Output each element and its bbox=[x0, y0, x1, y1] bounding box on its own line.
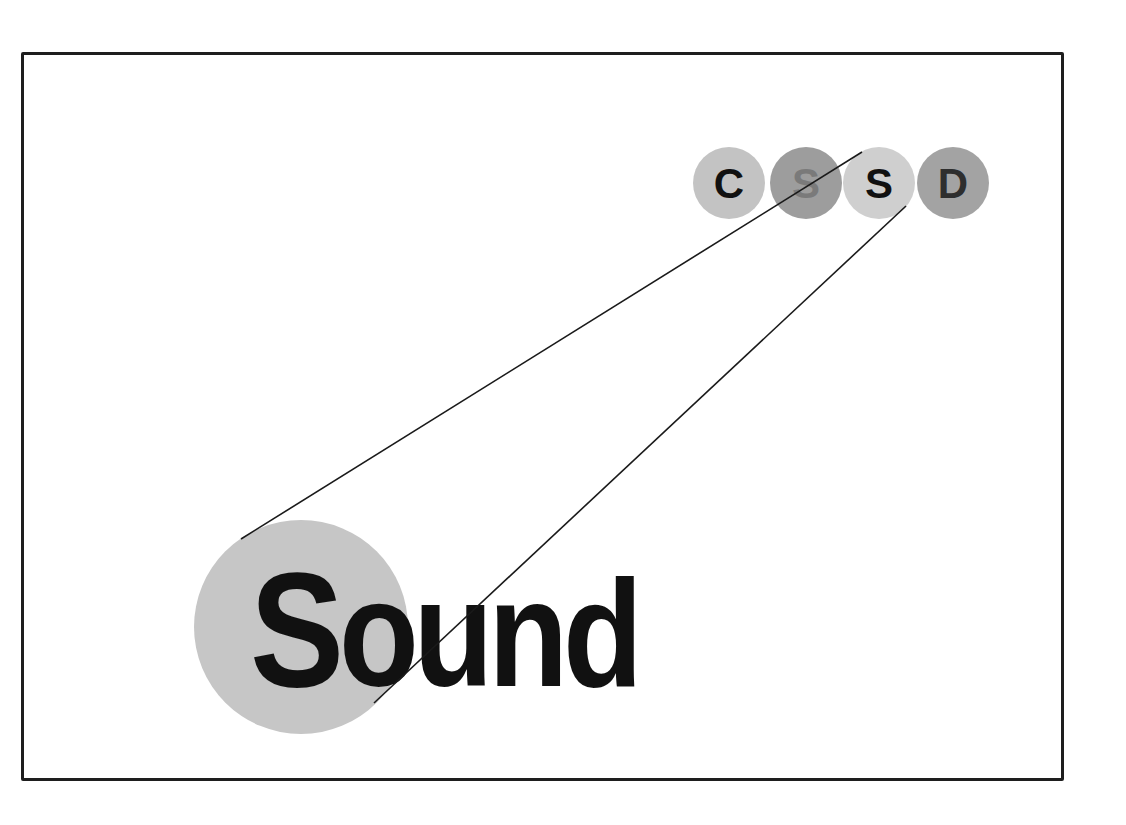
connector-lines bbox=[0, 0, 1126, 825]
connector-line-2 bbox=[374, 206, 906, 703]
connector-line-1 bbox=[241, 152, 862, 539]
